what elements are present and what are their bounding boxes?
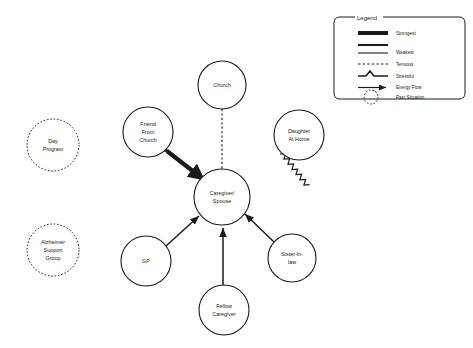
node-alzheimer-support-group[interactable]: Alzheimer Support Group: [27, 224, 79, 276]
node-sister-in-law-label-1: Sister-in-: [281, 251, 303, 257]
node-sister-in-law[interactable]: Sister-in- law: [268, 234, 316, 282]
legend-label-past-situation: Past Situation: [396, 95, 425, 100]
node-daughter-at-home-label-1: Daughter: [288, 128, 310, 134]
node-fellow-caregiver-label-1: Fellow: [216, 303, 232, 309]
node-alzheimer-support-group-label-2: Support: [44, 247, 63, 253]
node-fellow-caregiver-label-2: Caregiver: [212, 311, 236, 317]
node-friend-from-church-label-1: Friend: [140, 121, 155, 127]
node-friend-from-church-label-3: Church: [139, 137, 156, 143]
legend-panel: Legend Strongest Weakest Tenuous Stressf…: [334, 15, 465, 105]
link-sister-in-law-center: [245, 214, 274, 242]
node-day-program-label-2: Program: [43, 146, 64, 152]
node-day-program-label-1: Day: [48, 138, 58, 144]
node-church-label: Church: [213, 82, 230, 88]
node-gp[interactable]: GP: [121, 236, 171, 286]
legend-label-stressful: Stressful: [396, 74, 414, 79]
node-sister-in-law-label-2: law: [288, 259, 296, 265]
legend-label-strongest: Strongest: [396, 31, 416, 36]
legend-label-tenuous: Tenuous: [396, 62, 414, 67]
diagram-canvas: Caregiver/ Spouse Church Friend From Chu…: [0, 0, 473, 348]
node-caregiver-spouse-label-2: Spouse: [213, 198, 231, 204]
legend-sample-past-situation-icon: [364, 90, 378, 104]
node-friend-from-church-label-2: From: [142, 129, 155, 135]
node-daughter-at-home-label-2: At Home: [289, 136, 310, 142]
node-alzheimer-support-group-label-1: Alzheimer: [41, 239, 65, 245]
node-fellow-caregiver[interactable]: Fellow Caregiver: [199, 285, 249, 335]
legend-label-weakest: Weakest: [396, 50, 415, 55]
node-day-program[interactable]: Day Program: [27, 119, 79, 171]
node-daughter-at-home[interactable]: Daughter At Home: [274, 110, 324, 160]
node-gp-label: GP: [142, 258, 150, 264]
ecomap-diagram: Caregiver/ Spouse Church Friend From Chu…: [0, 0, 473, 348]
legend-label-energy-flow: Energy Flow: [396, 85, 422, 90]
node-alzheimer-support-group-label-3: Group: [46, 255, 61, 261]
link-gp-center: [166, 216, 199, 246]
node-church[interactable]: Church: [198, 61, 246, 109]
legend-title: Legend: [357, 15, 377, 21]
node-layer: Caregiver/ Spouse Church Friend From Chu…: [27, 61, 324, 335]
node-friend-from-church[interactable]: Friend From Church: [123, 107, 173, 157]
link-friend-church-center: [167, 151, 203, 179]
legend-sample-stressful-icon: [358, 71, 388, 76]
node-caregiver-spouse[interactable]: Caregiver/ Spouse: [194, 169, 250, 225]
node-caregiver-spouse-label-1: Caregiver/: [210, 190, 235, 196]
